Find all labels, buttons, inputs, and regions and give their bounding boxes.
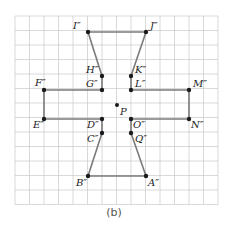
vertex-label: H″ [85, 64, 99, 75]
vertex-dot [129, 88, 133, 92]
vertex-label: O″ [133, 119, 145, 130]
vertex-dot [129, 131, 133, 135]
vertex-label: K″ [134, 64, 146, 75]
vertex-dot [100, 117, 104, 121]
vertex-label: I″ [72, 20, 81, 31]
vertex-dot [100, 131, 104, 135]
grid-diagram: I″J″H″K″G″L″F″M″E″D″O″N″C″Q″B″A″ P (b) [0, 0, 229, 227]
vertex-label: J″ [148, 20, 158, 31]
vertex-label: A″ [147, 177, 159, 188]
center-dot [115, 103, 119, 107]
vertex-dot [144, 30, 148, 34]
vertex-label: C″ [87, 133, 99, 144]
vertex-label: B″ [75, 177, 87, 188]
center-label: P [119, 106, 127, 117]
vertex-label: F″ [34, 77, 46, 88]
vertex-dot [129, 74, 133, 78]
vertex-label: L″ [134, 78, 146, 89]
vertex-dot [187, 88, 191, 92]
vertex-label: M″ [192, 78, 207, 89]
vertex-label: D″ [86, 119, 99, 130]
vertex-label: N″ [190, 119, 204, 130]
vertex-label: E″ [32, 119, 44, 130]
vertex-dot [42, 88, 46, 92]
vertex-label: G″ [86, 78, 98, 89]
vertex-label: Q″ [135, 133, 147, 144]
figure-caption: (b) [106, 206, 122, 219]
vertex-dot [100, 74, 104, 78]
vertex-dot [100, 88, 104, 92]
vertex-dot [86, 30, 90, 34]
